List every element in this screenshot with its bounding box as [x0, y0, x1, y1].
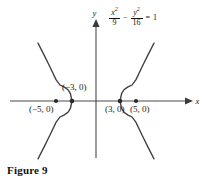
equation-minus-operator: − — [123, 14, 128, 22]
x-axis-arrowhead — [185, 97, 193, 104]
equation-term2-denominator: 16 — [131, 19, 143, 28]
equation-term1-numerator: x2 — [109, 9, 120, 18]
equation-term1-exponent: 2 — [115, 6, 118, 12]
equation-term2-exponent: 2 — [137, 6, 140, 12]
point-vertex-left — [70, 99, 75, 104]
equation-right-side: 1 — [153, 14, 157, 22]
label-focus-right: (5, 0) — [130, 105, 150, 114]
point-focus-right — [134, 99, 138, 103]
figure-caption: Figure 9 — [7, 165, 48, 176]
x-axis-label-glyph: x — [195, 96, 200, 106]
point-vertex-right — [118, 99, 123, 104]
label-vertex-left: (−3, 0) — [62, 83, 87, 92]
equation-term-y-squared-over-16: y2 16 — [131, 9, 143, 27]
figure-container: x y (−5, 0) (−3, 0) (3, 0) (5, 0) x2 9 −… — [0, 0, 206, 184]
equation-term-x-squared-over-9: x2 9 — [109, 9, 120, 27]
y-axis-label-glyph: y — [92, 8, 97, 18]
point-focus-left — [54, 99, 58, 103]
label-vertex-right: (3, 0) — [105, 105, 125, 114]
equation-term1-denominator: 9 — [111, 19, 119, 28]
hyperbola-plot: x y — [0, 0, 206, 184]
hyperbola-equation: x2 9 − y2 16 = 1 — [108, 9, 157, 27]
equation-term2-numerator: y2 — [131, 9, 142, 18]
y-axis-arrowhead — [92, 19, 99, 27]
label-focus-left: (−5, 0) — [29, 105, 54, 114]
equation-equals-sign: = — [146, 14, 151, 22]
